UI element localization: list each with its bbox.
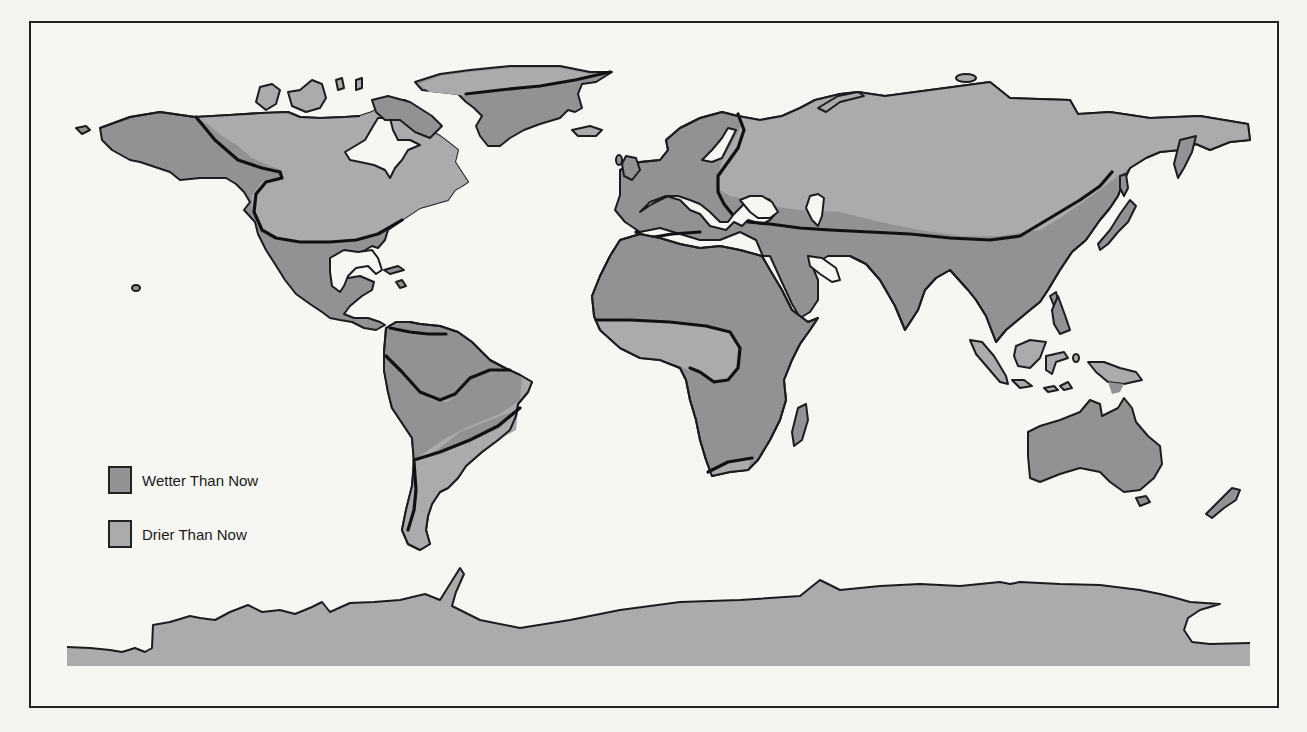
arctic-island-eurasia xyxy=(956,74,976,82)
aleutian-islet xyxy=(76,126,90,134)
new-guinea xyxy=(1088,362,1142,384)
north-america xyxy=(76,78,468,330)
map-legend: Wetter Than Now Drier Than Now xyxy=(108,465,258,573)
tasmania xyxy=(1136,496,1150,506)
arctic-island-2 xyxy=(288,80,326,112)
lesser-sunda-1 xyxy=(1044,386,1058,392)
drier-swatch xyxy=(108,520,132,548)
greenland xyxy=(415,66,612,146)
legend-item-wetter: Wetter Than Now xyxy=(108,465,258,495)
cuba xyxy=(384,266,404,274)
sulawesi xyxy=(1046,352,1068,374)
sakhalin xyxy=(1120,174,1128,196)
borneo xyxy=(1014,340,1046,368)
iceland xyxy=(572,126,602,136)
philippines xyxy=(1052,296,1070,334)
antarctica xyxy=(67,568,1250,666)
hawaii-islet xyxy=(132,285,140,291)
arctic-island-4 xyxy=(356,78,362,90)
antarctica-dry-region xyxy=(67,568,1250,666)
java xyxy=(1012,380,1032,388)
legend-label-wetter: Wetter Than Now xyxy=(142,472,258,489)
new-guinea-wet-south xyxy=(1108,382,1124,394)
wetter-swatch xyxy=(108,466,132,494)
south-america xyxy=(384,322,532,550)
arctic-island-1 xyxy=(256,84,280,110)
legend-label-drier: Drier Than Now xyxy=(142,526,247,543)
lesser-sunda-2 xyxy=(1060,382,1072,390)
australia xyxy=(1028,398,1162,492)
sumatra xyxy=(970,340,1008,384)
ireland xyxy=(616,155,622,165)
hispaniola xyxy=(396,280,406,288)
madagascar xyxy=(792,404,808,446)
maluku-islet xyxy=(1073,354,1079,362)
world-map xyxy=(0,0,1307,732)
new-zealand xyxy=(1206,488,1240,518)
legend-item-drier: Drier Than Now xyxy=(108,519,258,549)
arctic-island-3 xyxy=(336,78,344,90)
